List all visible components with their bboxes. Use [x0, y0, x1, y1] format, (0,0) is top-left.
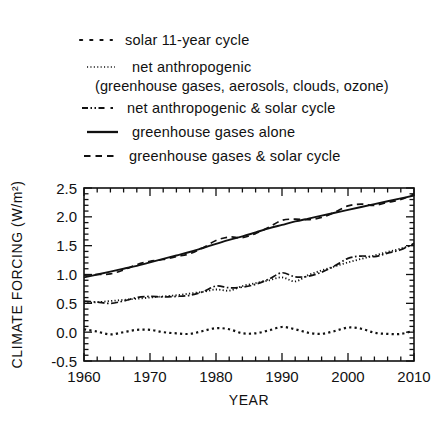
- series-solar-11-year-cycle: [84, 327, 414, 335]
- x-tick-label: 1990: [265, 368, 298, 385]
- y-tick-label: 2.5: [56, 180, 77, 197]
- legend-item-net-anthropogenic-solar: net anthropogenic & solar cycle: [80, 100, 336, 116]
- legend-item-solar-cycle: solar 11-year cycle: [78, 32, 249, 48]
- legend-label-greenhouse-alone: greenhouse gases alone: [132, 124, 295, 140]
- y-tick-label: -0.5: [51, 353, 77, 370]
- legend-label-net-anthropogenic: net anthropogenic: [132, 59, 252, 75]
- y-tick-label: 2.0: [56, 208, 77, 225]
- x-tick-label: 1960: [67, 368, 100, 385]
- legend-sublabel-net-anthropogenic: (greenhouse gases, aerosols, clouds, ozo…: [95, 78, 389, 94]
- plot-frame: [84, 188, 414, 361]
- y-axis-title: CLIMATE FORCING (W/m²): [9, 181, 25, 369]
- y-tick-label: 1.0: [56, 266, 77, 283]
- legend-item-net-anthropogenic: net anthropogenic: [85, 59, 252, 75]
- legend-line-dash-dot-icon: [80, 101, 120, 115]
- series-greenhouse-gases-alone: [84, 196, 414, 278]
- chart-legend: solar 11-year cycle net anthropogenic (g…: [0, 14, 435, 164]
- legend-label-net-anthropogenic-solar: net anthropogenic & solar cycle: [127, 100, 336, 116]
- legend-label-solar-cycle: solar 11-year cycle: [125, 32, 249, 48]
- series-net-anthropogenic: [84, 245, 414, 304]
- y-tick-label: 1.5: [56, 237, 77, 254]
- climate-forcing-plot: 196019701980199020002010-0.50.00.51.01.5…: [0, 160, 435, 425]
- page-header-artifact: [0, 0, 435, 8]
- x-tick-label: 2000: [331, 368, 364, 385]
- legend-line-dotted-fine-icon: [85, 60, 125, 74]
- series-net-anthropogenic-solar-cycle: [84, 243, 414, 303]
- y-tick-label: 0.0: [56, 324, 77, 341]
- figure-climate-forcing: solar 11-year cycle net anthropogenic (g…: [0, 0, 435, 425]
- x-tick-label: 2010: [397, 368, 430, 385]
- x-tick-label: 1980: [199, 368, 232, 385]
- y-tick-label: 0.5: [56, 295, 77, 312]
- x-tick-label: 1970: [133, 368, 166, 385]
- x-axis-title: YEAR: [229, 392, 270, 408]
- legend-line-solid-icon: [85, 125, 125, 139]
- legend-line-dotted-coarse-icon: [78, 33, 118, 47]
- legend-item-greenhouse-alone: greenhouse gases alone: [85, 124, 295, 140]
